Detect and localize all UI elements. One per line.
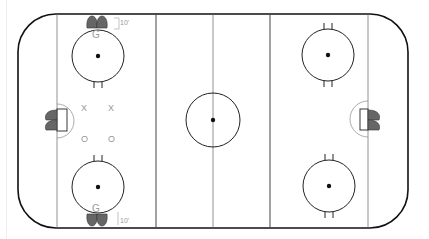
player-o-right: O xyxy=(108,134,115,144)
faceoff-circle-top-right xyxy=(302,23,354,87)
player-x-right: X xyxy=(108,103,114,113)
goalie-marker-right xyxy=(368,110,380,130)
goal-crease-right xyxy=(350,101,368,137)
goalie-marker-top xyxy=(87,16,107,28)
player-o-left: O xyxy=(81,134,88,144)
player-x-left: X xyxy=(81,103,87,113)
goalie-marker-left xyxy=(45,110,57,130)
hockey-rink-diagram: G G 10' 10' X X O O xyxy=(0,0,429,239)
goalie-label-top: G xyxy=(92,29,100,40)
distance-bracket-top xyxy=(114,18,119,29)
goalie-label-bottom: G xyxy=(92,203,100,214)
distance-label-top: 10' xyxy=(120,19,129,26)
center-faceoff-dot xyxy=(211,118,215,122)
goalie-marker-bottom xyxy=(87,214,107,226)
distance-label-bottom: 10' xyxy=(120,217,129,224)
goal-crease-left xyxy=(57,104,74,138)
faceoff-circle-bottom-right xyxy=(303,154,355,218)
